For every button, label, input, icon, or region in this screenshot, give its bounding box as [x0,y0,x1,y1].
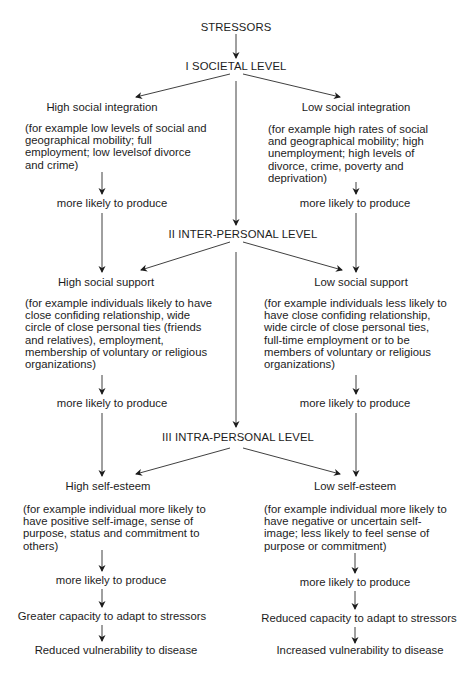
low-social-support-heading: Low social support [314,276,408,288]
arrow-intrapersonal-to-high-esteem [136,448,230,474]
right-interpersonal-produce-label: more likely to produce [300,397,411,409]
low-social-integration-heading: Low social integration [302,101,411,113]
arrow-societal-to-low-integration [243,74,340,97]
left-intrapersonal-produce-label: more likely to produce [56,574,167,586]
high-social-integration-examples: (for example low levels of social and ge… [25,122,206,171]
interpersonal-level-label: II INTER-PERSONAL LEVEL [169,228,318,240]
left-societal-produce-label: more likely to produce [57,197,168,209]
low-self-esteem-heading: Low self-esteem [314,480,396,492]
right-societal-produce-label: more likely to produce [300,197,411,209]
intrapersonal-level-label: III INTRA-PERSONAL LEVEL [162,431,314,443]
arrow-interpersonal-to-high-support [141,242,230,270]
low-social-integration-examples: (for example high rates of social and ge… [268,123,428,184]
high-social-support-examples: (for example individuals likely to have … [25,297,212,370]
high-self-esteem-heading: High self-esteem [66,480,151,492]
low-social-support-examples: (for example individuals less likely to … [264,297,447,370]
stressors-title: STRESSORS [201,21,272,33]
greater-capacity-label: Greater capacity to adapt to stressors [18,610,206,622]
arrow-societal-to-high-integration [136,74,230,97]
high-social-support-heading: High social support [58,276,154,288]
high-self-esteem-examples: (for example individual more likely to h… [23,503,206,552]
left-interpersonal-produce-label: more likely to produce [57,397,168,409]
reduced-vulnerability-label: Reduced vulnerability to disease [35,644,198,656]
low-self-esteem-examples: (for example individual more likely to h… [264,503,447,552]
stress-flow-diagram: STRESSORS I SOCIETAL LEVEL High social i… [0,0,476,687]
societal-level-label: I SOCIETAL LEVEL [186,60,287,72]
arrow-interpersonal-to-low-support [243,242,342,270]
reduced-capacity-label: Reduced capacity to adapt to stressors [261,612,456,624]
right-intrapersonal-produce-label: more likely to produce [300,576,411,588]
high-social-integration-heading: High social integration [46,101,157,113]
increased-vulnerability-label: Increased vulnerability to disease [276,644,443,656]
arrow-intrapersonal-to-low-esteem [243,448,340,474]
